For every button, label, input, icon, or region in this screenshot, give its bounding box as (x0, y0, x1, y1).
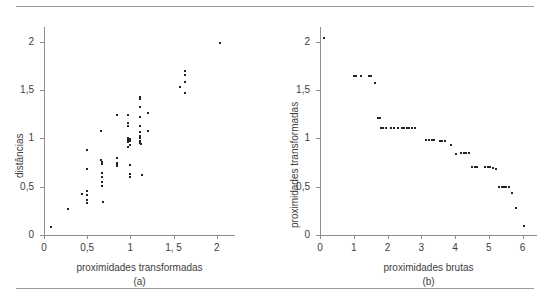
data-point (141, 174, 143, 176)
data-point (219, 42, 221, 44)
data-point (323, 37, 325, 39)
data-point (86, 168, 88, 170)
data-point (129, 173, 131, 175)
data-point (411, 127, 413, 129)
data-point (511, 192, 513, 194)
y-tick-a-4 (40, 42, 44, 43)
x-tick-b-3 (421, 235, 422, 239)
data-point (179, 86, 181, 88)
data-point (127, 146, 129, 148)
data-point (460, 152, 462, 154)
data-point (380, 127, 382, 129)
data-point (184, 70, 186, 72)
data-point (489, 166, 491, 168)
x-tick-label-a-1: 0,5 (67, 243, 107, 253)
data-point (385, 127, 387, 129)
data-point (81, 193, 83, 195)
data-point (139, 131, 141, 133)
x-tick-b-0 (320, 235, 321, 239)
x-axis-line-a (44, 235, 235, 236)
y-axis-line-a (44, 27, 45, 236)
data-point (86, 149, 88, 151)
panel-caption-b: (b) (320, 276, 537, 287)
x-tick-label-b-6: 6 (503, 243, 543, 253)
y-tick-label-a-3: 1,5 (0, 85, 34, 95)
scatter-plot-b: 012345600,511,52 (320, 27, 536, 235)
y-tick-a-0 (40, 235, 44, 236)
data-point (139, 116, 141, 118)
x-tick-b-4 (455, 235, 456, 239)
panel-caption-a: (a) (44, 276, 235, 287)
data-point (370, 75, 372, 77)
data-point (487, 166, 489, 168)
data-point (414, 127, 416, 129)
data-point (129, 144, 131, 146)
y-tick-a-2 (40, 138, 44, 139)
y-tick-b-4 (316, 42, 320, 43)
data-point (86, 199, 88, 201)
panel-b: 012345600,511,52 proximidades transforma… (275, 0, 550, 296)
data-point (390, 127, 392, 129)
data-point (127, 114, 129, 116)
data-point (147, 112, 149, 114)
data-point (86, 194, 88, 196)
data-point (379, 117, 381, 119)
data-point (425, 139, 427, 141)
data-point (127, 122, 129, 124)
x-tick-b-1 (354, 235, 355, 239)
x-tick-a-4 (217, 235, 218, 239)
data-point (441, 140, 443, 142)
data-point (428, 139, 430, 141)
y-axis-title-a: distâncias (14, 134, 25, 178)
data-point (476, 166, 478, 168)
data-point (129, 140, 131, 142)
data-point (184, 92, 186, 94)
y-tick-b-3 (316, 90, 320, 91)
data-point (184, 81, 186, 83)
data-point (101, 163, 103, 165)
data-point (139, 125, 141, 127)
y-tick-b-1 (316, 187, 320, 188)
x-tick-a-2 (130, 235, 131, 239)
y-tick-label-b-4: 2 (276, 37, 310, 47)
x-axis-title-b: proximidades brutas (320, 262, 537, 273)
data-point (116, 165, 118, 167)
data-point (102, 201, 104, 203)
data-point (505, 186, 507, 188)
data-point (101, 181, 103, 183)
data-point (101, 172, 103, 174)
data-point (515, 207, 517, 209)
y-tick-a-1 (40, 187, 44, 188)
data-point (360, 75, 362, 77)
data-point (86, 190, 88, 192)
x-tick-label-a-3: 1, 5 (154, 243, 194, 253)
scatter-plot-a: 00,511, 5200,511,52 (44, 27, 234, 235)
data-point (455, 153, 457, 155)
data-point (508, 186, 510, 188)
data-point (67, 208, 69, 210)
x-tick-b-2 (388, 235, 389, 239)
data-point (382, 127, 384, 129)
data-point (433, 139, 435, 141)
data-point (393, 127, 395, 129)
x-tick-a-0 (44, 235, 45, 239)
data-point (129, 164, 131, 166)
x-tick-label-a-0: 0 (24, 243, 64, 253)
data-point (139, 106, 141, 108)
x-axis-line-b (320, 235, 537, 236)
data-point (374, 82, 376, 84)
data-point (116, 114, 118, 116)
data-point (444, 140, 446, 142)
data-point (184, 74, 186, 76)
figure-container: 00,511, 5200,511,52 distâncias proximida… (0, 0, 550, 296)
data-point (397, 127, 399, 129)
y-tick-b-2 (316, 138, 320, 139)
data-point (101, 176, 103, 178)
data-point (431, 139, 433, 141)
data-point (86, 202, 88, 204)
data-point (139, 137, 141, 139)
x-axis-title-a: proximidades transformadas (44, 262, 235, 273)
x-tick-a-3 (174, 235, 175, 239)
y-axis-line-b (320, 27, 321, 236)
y-tick-label-b-3: 1,5 (276, 85, 310, 95)
